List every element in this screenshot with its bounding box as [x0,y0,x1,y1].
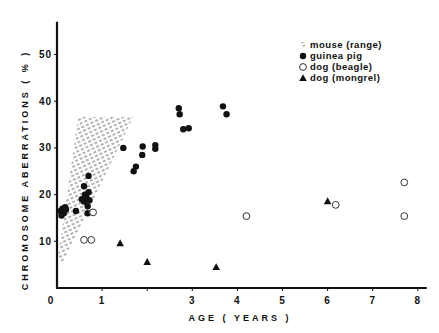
guinea-pig-point [84,203,90,209]
dog-mongrel-point [324,197,332,204]
x-tick-label: 0 [48,295,55,306]
x-tick-label: 6 [324,295,331,306]
guinea-pig-point [176,105,182,111]
dog-beagle-point [243,213,250,220]
guinea-pig-point [73,208,79,214]
x-tick-label: 3 [189,295,196,306]
dog-beagle-point [332,201,339,208]
legend-label: guinea pig [310,50,363,61]
legend-swatch-filled-circle [300,53,306,59]
y-tick-label: 50 [39,49,52,60]
guinea-pig-point [220,103,226,109]
legend-item: guinea pig [300,50,363,61]
legend-label: mouse (range) [310,39,382,50]
legend-item: dog (beagle) [300,61,373,72]
dog-beagle-point [88,236,95,243]
y-tick-label: 10 [39,236,52,247]
guinea-pig-point [176,111,182,117]
guinea-pig-point [152,142,158,148]
guinea-pig-point [139,143,145,149]
y-axis-title: CHROMOSOME ABERRATIONS ( % ) [20,50,30,291]
dog-mongrel-point [116,239,124,246]
guinea-pig-point [85,189,91,195]
dog-beagle-point [90,209,97,216]
legend-item: mouse (range) [299,39,382,50]
guinea-pig-point [185,125,191,131]
legend-swatch-filled-triangle [299,74,307,81]
y-tick-label: 40 [39,96,52,107]
guinea-pig-point [85,173,91,179]
guinea-pig-point [86,197,92,203]
guinea-pig-point [223,111,229,117]
dog-beagle-point [401,179,408,186]
guinea-pig-point [180,126,186,132]
dog-mongrel-point [143,258,151,265]
x-tick-label: 7 [369,295,376,306]
legend-swatch-hatched [299,42,306,49]
guinea-pig-point [133,163,139,169]
dog-beagle-point [81,236,88,243]
guinea-pig-point [139,152,145,158]
dog-beagle-point [401,213,408,220]
legend-label: dog (beagle) [310,61,372,72]
guinea-pig-point [120,145,126,151]
legend: mouse (range)guinea pigdog (beagle)dog (… [299,39,382,83]
dog-mongrel-point [212,263,220,270]
x-tick-label: 4 [234,295,241,306]
x-tick-label: 8 [415,295,422,306]
x-tick-label: 5 [279,295,286,306]
legend-label: dog (mongrel) [310,72,380,83]
scatter-chart: 013456781020304050 AGE ( YEARS ) CHROMOS… [0,0,439,333]
legend-swatch-open-circle [300,64,307,71]
y-tick-label: 20 [39,189,52,200]
plot-area [57,103,407,270]
legend-item: dog (mongrel) [299,72,380,83]
x-axis-title: AGE ( YEARS ) [189,313,292,323]
guinea-pig-point [81,183,87,189]
y-tick-label: 30 [39,142,52,153]
x-tick-label: 1 [99,295,106,306]
guinea-pig-point [63,206,69,212]
